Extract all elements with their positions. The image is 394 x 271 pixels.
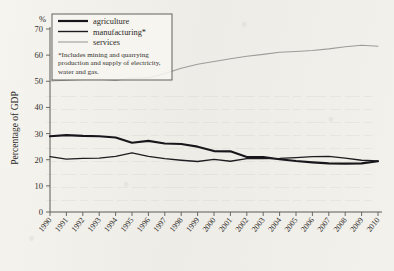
legend-label-agriculture: agriculture [93,17,130,26]
x-tick-label: 2001 [217,216,234,234]
y-axis-title: Percentage of GDP [10,91,20,164]
x-tick-label: 1992 [69,216,86,234]
line-chart-figure: 010203040506070 199019911992199319941995… [0,0,394,271]
x-axis: 1990199119921993199419951996199719981999… [37,212,382,234]
x-tick-label: 2002 [233,216,250,234]
legend-label-services: services [93,38,120,47]
x-tick-label: 2009 [348,216,365,234]
percent-symbol-label: % [39,14,46,24]
x-tick-label: 1998 [168,216,185,234]
x-tick-label: 1999 [184,216,201,234]
y-tick-label: 0 [39,207,43,217]
legend-footnote-line: production and supply of electricity, [58,59,161,67]
chart-canvas: 010203040506070 199019911992199319941995… [0,0,394,271]
y-tick-label: 10 [35,181,44,191]
x-tick-label: 2004 [266,216,283,234]
y-tick-label: 30 [35,129,44,139]
y-axis: 010203040506070 [35,24,51,217]
legend-footnote-line: *Includes mining and quarrying [58,51,149,59]
x-tick-label: 2006 [299,216,316,234]
y-tick-label: 60 [35,50,44,60]
x-tick-label: 1993 [86,216,103,234]
x-tick-label: 2007 [315,216,332,234]
x-tick-label: 1991 [53,216,70,234]
x-tick-label: 2008 [332,216,349,234]
x-tick-label: 2003 [250,216,267,234]
x-tick-label: 1990 [37,216,54,234]
x-tick-label: 1994 [102,216,119,234]
x-tick-label: 1997 [151,216,168,234]
chart-legend: agriculturemanufacturing*services*Includ… [52,14,172,80]
x-tick-label: 2000 [201,216,218,234]
x-tick-label: 1996 [135,216,152,234]
x-tick-label: 2010 [365,216,382,234]
y-tick-label: 50 [35,76,44,86]
x-tick-label: 1995 [119,216,136,234]
x-tick-label: 2005 [283,216,300,234]
legend-footnote-line: water and gas. [58,68,99,76]
series-line-manufacturing [50,153,378,162]
y-tick-label: 40 [35,102,44,112]
y-tick-label: 70 [35,24,44,34]
legend-label-manufacturing: manufacturing* [93,28,146,37]
y-tick-label: 20 [35,155,44,165]
